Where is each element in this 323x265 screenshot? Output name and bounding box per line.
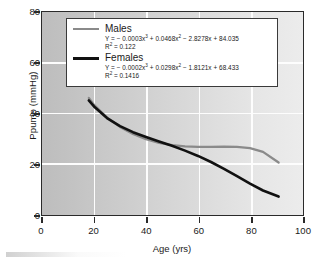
chart-figure: Ppump (mmHg) 80 60 40 20 0 Males Y: [0, 0, 323, 265]
plot-area: Males Y = − 0.0003x3 + 0.0468x2 − 2.8278…: [41, 11, 304, 216]
y-tick-mark-60: [34, 62, 40, 64]
legend-label-females: Females: [105, 52, 143, 64]
legend-label-males: Males: [105, 23, 132, 35]
x-tick-label-0: 0: [26, 225, 56, 236]
legend-entry-males: Males Y = − 0.0003x3 + 0.0468x2 − 2.8278…: [73, 23, 271, 51]
x-tick-mark-80: [251, 217, 253, 223]
legend-r2-males: R2 = 0.122: [105, 43, 271, 51]
x-tick-label-100: 100: [288, 225, 318, 236]
x-tick-mark-20: [94, 217, 96, 223]
x-tick-label-80: 80: [236, 225, 266, 236]
y-tick-mark-20: [34, 164, 40, 166]
y-tick-mark-80: [34, 11, 40, 13]
legend-swatch-males-icon: [73, 28, 99, 30]
legend-equation-males: Y = − 0.0003x3 + 0.0468x2 − 2.8278x + 84…: [105, 35, 271, 43]
legend-r2-females: R2 = 0.1416: [105, 72, 271, 80]
y-tick-mark-0: [34, 215, 40, 217]
y-tick-mark-40: [34, 113, 40, 115]
legend-equation-females: Y = − 0.0002x3 + 0.0298x2 − 1.8121x + 68…: [105, 64, 271, 72]
scan-artifact: [6, 252, 126, 257]
x-tick-label-60: 60: [184, 225, 214, 236]
x-tick-mark-100: [303, 217, 305, 223]
chart-legend: Males Y = − 0.0003x3 + 0.0468x2 − 2.8278…: [66, 18, 278, 87]
legend-swatch-females-icon: [73, 57, 99, 60]
x-tick-mark-40: [146, 217, 148, 223]
x-tick-mark-60: [199, 217, 201, 223]
x-tick-label-40: 40: [131, 225, 161, 236]
x-tick-label-20: 20: [79, 225, 109, 236]
x-tick-mark-0: [41, 217, 43, 223]
legend-entry-females: Females Y = − 0.0002x3 + 0.0298x2 − 1.81…: [73, 52, 271, 80]
series-line-males: [89, 98, 279, 163]
